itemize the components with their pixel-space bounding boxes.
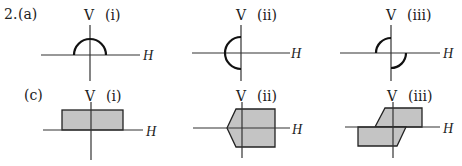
diagram-canvas: 2. (a) V (i) H V (ii) H V (iii) H (c) V … xyxy=(0,0,462,166)
v-axis-label: V xyxy=(235,88,247,104)
v-axis-label: V xyxy=(235,7,247,23)
row-label-c: (c) xyxy=(24,87,43,103)
shaded-region-lower xyxy=(358,127,406,146)
panel-c-ii: V (ii) H xyxy=(193,88,303,158)
quarter-curve-upper xyxy=(376,38,391,53)
h-axis-label: H xyxy=(442,121,454,136)
panel-a-ii: V (ii) H xyxy=(192,7,302,81)
problem-number: 2. xyxy=(4,6,17,22)
quarter-curve-lower xyxy=(391,53,406,68)
h-axis-label: H xyxy=(291,122,303,137)
h-axis-label: H xyxy=(142,48,154,63)
panel-id: (i) xyxy=(106,88,121,104)
panel-id: (iii) xyxy=(408,88,432,104)
v-axis-label: V xyxy=(83,7,95,23)
panel-id: (ii) xyxy=(257,88,277,104)
panel-a-i: V (i) H xyxy=(41,7,154,81)
v-axis-label: V xyxy=(385,7,397,23)
h-axis-label: H xyxy=(442,46,454,61)
panel-id: (i) xyxy=(105,7,120,23)
panel-c-iii: V (iii) H xyxy=(345,88,454,158)
shaded-region-upper xyxy=(375,108,422,127)
shaded-region xyxy=(62,110,123,130)
row-label-a: (a) xyxy=(18,6,37,22)
panel-c-i: V (i) H xyxy=(43,88,157,160)
panel-id: (ii) xyxy=(257,7,277,23)
v-axis-label: V xyxy=(386,88,398,104)
panel-a-iii: V (iii) H xyxy=(340,7,454,81)
h-axis-label: H xyxy=(145,124,157,139)
panel-id: (iii) xyxy=(407,7,431,23)
h-axis-label: H xyxy=(290,46,302,61)
v-axis-label: V xyxy=(84,88,96,104)
